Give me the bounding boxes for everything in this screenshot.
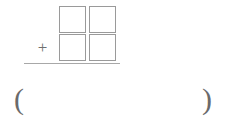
sum-horizontal-rule xyxy=(24,63,120,64)
digit-value-bottom-ones xyxy=(90,35,115,60)
vertical-addition-stack: + xyxy=(0,0,225,70)
digit-box-top-ones[interactable] xyxy=(89,6,116,33)
answer-paren-open: ( xyxy=(12,82,26,117)
digit-box-top-tens[interactable] xyxy=(59,6,86,33)
answer-line: ( ) xyxy=(0,82,225,117)
digit-value-bottom-tens xyxy=(60,35,85,60)
digit-value-top-tens xyxy=(60,7,85,32)
plus-operator-symbol: + xyxy=(33,38,52,57)
digit-box-bottom-tens[interactable] xyxy=(59,34,86,61)
worksheet-problem: + ( ) xyxy=(0,0,225,117)
answer-paren-close: ) xyxy=(200,82,214,117)
digit-value-top-ones xyxy=(90,7,115,32)
answer-blank-field[interactable] xyxy=(26,82,200,117)
digit-box-bottom-ones[interactable] xyxy=(89,34,116,61)
